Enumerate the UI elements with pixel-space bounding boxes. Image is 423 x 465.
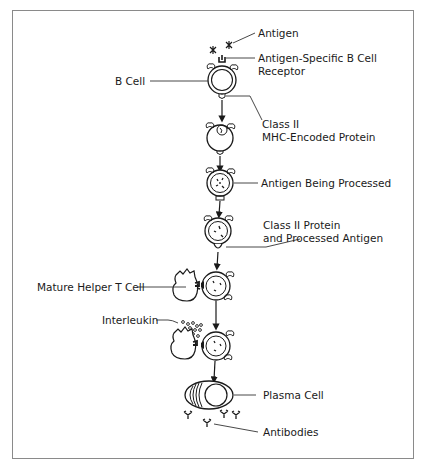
plasma-cell-icon (185, 381, 256, 409)
b-cell-icon (150, 55, 255, 99)
antigen-processing-icon (206, 168, 258, 200)
label-helper-t-cell: Mature Helper T Cell (37, 281, 145, 294)
label-processing: Antigen Being Processed (261, 177, 391, 190)
label-b-cell: B Cell (115, 75, 145, 88)
b-cell-engulfing-icon (206, 123, 235, 155)
helper-t-cell-icon (138, 269, 200, 301)
antibodies-icon (184, 410, 240, 427)
label-class2-line1: Class II (262, 118, 299, 131)
label-class2-line2: MHC-Encoded Protein (262, 131, 376, 144)
label-antibodies: Antibodies (263, 426, 318, 439)
label-plasma-cell: Plasma Cell (263, 389, 324, 402)
b-cell-activated-icon (201, 331, 234, 360)
helper-t-cell-secreting-icon (171, 327, 197, 359)
label-antigen: Antigen (258, 27, 299, 40)
b-cell-bound-icon (201, 272, 234, 300)
label-receptor-line1: Antigen-Specific B Cell (258, 52, 377, 65)
label-receptor-line2: Receptor (258, 65, 305, 78)
antigen-icon (210, 41, 232, 54)
label-presenting-line2: and Processed Antigen (263, 232, 383, 245)
label-presenting-line1: Class II Protein (263, 219, 340, 232)
antigen-presenting-icon (204, 216, 233, 248)
label-interleukin: Interleukin (102, 314, 158, 327)
